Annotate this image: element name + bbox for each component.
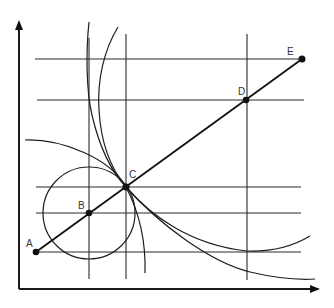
label-e: E [287,46,294,57]
point-e [299,56,306,63]
label-a: A [26,238,33,249]
curves [25,22,315,279]
line-a-e [36,59,302,252]
label-c: C [129,169,136,180]
point-c [122,183,129,190]
point-a [33,249,40,256]
geometric-diagram: A B C D E [0,0,334,308]
point-b [86,210,93,217]
label-b: B [78,200,85,211]
curve-right [99,27,310,251]
point-d [243,97,250,104]
label-d: D [238,86,245,97]
